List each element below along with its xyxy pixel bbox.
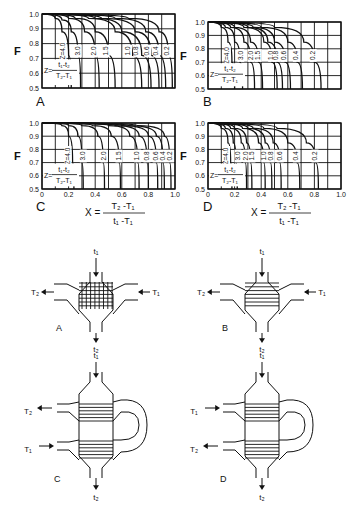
y-tick-label: 0.9 <box>195 133 205 140</box>
z-label: 2.0 <box>100 151 107 160</box>
z-label: 0.2 <box>311 151 318 160</box>
chart-panel-d: 1.00.90.80.70.60.5F00.20.40.60.81.0Z=4.0… <box>180 120 346 227</box>
y-tick-label: 0.5 <box>29 186 39 193</box>
z-label: 3.0 <box>237 51 244 60</box>
x-tick-label: 1.0 <box>170 191 180 198</box>
svg-text:X =: X = <box>251 207 266 218</box>
z-label: 1.5 <box>254 51 261 60</box>
exchanger-d: t₁t₂T₁T₂D <box>190 351 313 502</box>
y-axis-label: F <box>180 50 187 62</box>
y-tick-label: 0.8 <box>29 146 39 153</box>
y-tick-label: 0.6 <box>29 70 39 77</box>
svg-text:T₂-T₁: T₂-T₁ <box>222 177 239 184</box>
y-tick-label: 0.5 <box>195 186 205 193</box>
y-tick-label: 0.5 <box>29 85 39 92</box>
y-tick-label: 0.8 <box>29 40 39 47</box>
y-tick-label: 1.0 <box>195 19 205 26</box>
svg-text:Z=: Z= <box>44 172 52 179</box>
z-label: 0.4 <box>152 46 159 55</box>
inlet-label-t1: t₁ <box>260 247 265 256</box>
z-label: Z=4.0 <box>223 47 230 64</box>
y-tick-label: 1.0 <box>195 120 205 127</box>
panel-label: B <box>203 94 212 109</box>
x-tick-label: 0.6 <box>283 191 293 198</box>
z-label: 0.2 <box>309 51 316 60</box>
shell-inlet-label: T₁ <box>152 288 160 297</box>
upper-shell-label: T₂ <box>24 407 32 416</box>
x-tick-label: 0.8 <box>310 191 320 198</box>
exchanger-c: t₁t₂T₂T₁C <box>24 351 147 502</box>
y-tick-label: 0.7 <box>29 55 39 62</box>
y-tick-label: 0.6 <box>29 172 39 179</box>
z-label: 0.8 <box>267 151 274 160</box>
y-tick-label: 0.8 <box>195 45 205 52</box>
z-label: 1.5 <box>102 46 109 55</box>
z-label: Z=4.0 <box>64 147 71 164</box>
inlet-label-t1: t₁ <box>260 351 265 360</box>
z-label: 0.2 <box>163 46 170 55</box>
svg-text:Z=: Z= <box>210 71 218 78</box>
z-label: Z=4.0 <box>222 147 229 164</box>
panel-label: D <box>203 199 212 214</box>
z-label: 0.8 <box>132 46 139 55</box>
upper-shell-label: T₁ <box>190 407 198 416</box>
exchanger-a: t₁t₂T₂T₁A <box>31 247 160 354</box>
z-label: 1.0 <box>124 46 131 55</box>
chart-panel-a: 1.00.90.80.70.60.5FZ=4.03.02.01.51.00.80… <box>14 11 175 110</box>
x-tick-label: 0.6 <box>117 191 127 198</box>
y-tick-label: 0.6 <box>195 172 205 179</box>
z-label: 0.4 <box>292 151 299 160</box>
svg-text:T₂ -T₁: T₂ -T₁ <box>111 201 134 211</box>
z-definition: Z=t₁-t₂T₂-T₁ <box>209 63 245 86</box>
z-label: 0.6 <box>152 151 159 160</box>
svg-text:t₁-t₂: t₁-t₂ <box>58 166 70 173</box>
y-tick-label: 0.9 <box>195 32 205 39</box>
z-label: 0.6 <box>276 151 283 160</box>
x-tick-label: 0.2 <box>230 191 240 198</box>
lower-shell-label: T₂ <box>190 445 198 454</box>
panel-label: C <box>36 199 45 214</box>
z-label: 2.0 <box>247 51 254 60</box>
z-label: 1.5 <box>248 151 255 160</box>
x-tick-label: 0 <box>206 191 210 198</box>
outlet-label-t2: t₂ <box>93 493 98 502</box>
svg-text:t₁ -T₁: t₁ -T₁ <box>279 216 299 226</box>
x-tick-label: 0.4 <box>256 191 266 198</box>
exchanger-label: D <box>220 474 227 484</box>
exchanger-label: C <box>54 474 61 484</box>
exchanger-b: t₁t₂T₂T₁B <box>197 247 326 354</box>
exchanger-label: B <box>222 323 228 333</box>
svg-text:T₂-T₁: T₂-T₁ <box>56 72 73 79</box>
z-label: 1.0 <box>133 151 140 160</box>
z-definition: Z=t₁-t₂T₂-T₁ <box>43 59 79 85</box>
y-axis-label: F <box>180 150 187 162</box>
z-label: 0.8 <box>272 51 279 60</box>
svg-text:t₁-t₂: t₁-t₂ <box>224 65 236 72</box>
z-label: 3.0 <box>79 151 86 160</box>
x-tick-label: 0.8 <box>144 191 154 198</box>
y-tick-label: 1.0 <box>29 11 39 18</box>
svg-text:T₂-T₁: T₂-T₁ <box>56 177 73 184</box>
z-label: 3.0 <box>74 46 81 55</box>
y-tick-label: 0.9 <box>29 25 39 32</box>
y-tick-label: 1.0 <box>29 120 39 127</box>
z-label: 2.0 <box>90 46 97 55</box>
svg-text:t₁-t₂: t₁-t₂ <box>58 61 70 68</box>
y-tick-label: 0.5 <box>195 86 205 93</box>
panel-label: A <box>36 94 45 109</box>
inlet-label-t1: t₁ <box>94 247 99 256</box>
outlet-label-t2: t₂ <box>259 493 264 502</box>
y-tick-label: 0.8 <box>195 146 205 153</box>
z-definition: Z=t₁-t₂T₂-T₁ <box>43 164 79 187</box>
svg-text:T₂ -T₁: T₂ -T₁ <box>277 201 300 211</box>
svg-text:T₂-T₁: T₂-T₁ <box>222 76 239 83</box>
z-label: 0.6 <box>143 46 150 55</box>
svg-text:t₁ -T₁: t₁ -T₁ <box>113 216 133 226</box>
x-tick-label: 0.2 <box>64 191 74 198</box>
x-tick-label: 0 <box>40 191 44 198</box>
z-label: 0.4 <box>292 51 299 60</box>
z-label: 3.0 <box>234 151 241 160</box>
y-tick-label: 0.7 <box>195 159 205 166</box>
shell-outlet-label: T₂ <box>197 288 205 297</box>
y-tick-label: 0.9 <box>29 133 39 140</box>
